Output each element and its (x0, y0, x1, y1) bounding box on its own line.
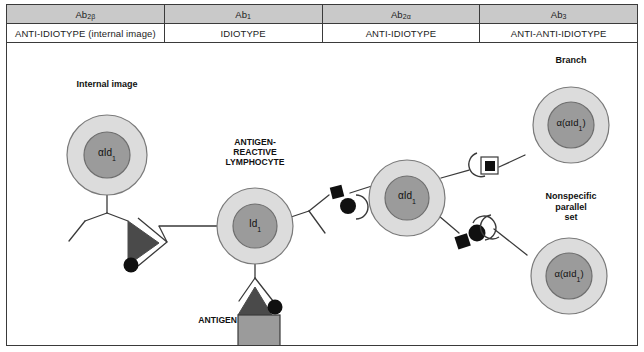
parallel-nucleus-tail: ) (580, 268, 583, 279)
ab1-paratope-arc-icon (356, 195, 368, 219)
ab2alpha-nucleus-label: αId1 (380, 190, 434, 203)
ab1-nucleus-text: Id (249, 218, 257, 229)
ab2beta-nucleus-sub: 1 (112, 155, 116, 162)
nps-line-2: parallel (519, 202, 623, 213)
receptor-arm-ab2beta-right (107, 213, 128, 221)
header-code-ab2beta-text: Ab (75, 9, 87, 20)
parallel-binding-group (454, 215, 499, 250)
stem-ab2alpha-lower (439, 216, 459, 233)
header-desc-ab2beta: ANTI-IDIOTYPE (internal image) (7, 24, 165, 42)
branch-nucleus-label: α(αId1) (538, 117, 604, 130)
antigen-epitope-triangle-icon (238, 287, 272, 315)
bond-to-parallel-cell (494, 229, 527, 255)
arl-line-1: ANTIGEN- (203, 137, 307, 147)
header-description-row: ANTI-IDIOTYPE (internal image) IDIOTYPE … (7, 24, 637, 43)
receptor-arm-ab1-lower (309, 211, 325, 233)
ab1-nucleus-sub: 1 (257, 226, 261, 233)
header-code-ab3-text: Ab (551, 9, 563, 20)
nonspecific-parallel-set-label: Nonspecific parallel set (519, 191, 623, 223)
header-code-ab1-text: Ab (235, 9, 247, 20)
diagram-frame: Ab2β Ab1 Ab2α Ab3 ANTI-IDIOTYPE (interna… (6, 4, 638, 346)
header-code-ab3: Ab3 (480, 5, 637, 23)
receptor-arm-ab1-upper (309, 195, 329, 211)
bond-to-branch-cell (499, 155, 525, 167)
nps-line-3: set (519, 212, 623, 223)
ab2beta-nucleus-label: αId1 (80, 147, 134, 160)
parallel-nucleus-label: α(αId1) (536, 268, 602, 281)
branch-nucleus-tail: ) (582, 117, 585, 128)
ab2beta-nucleus-text: αId (98, 147, 112, 158)
parallel-nucleus-sub: 1 (577, 276, 581, 283)
stem-ab2alpha-upper (441, 170, 469, 178)
header-desc-ab3: ANTI-ANTI-IDIOTYPE (480, 24, 637, 42)
ab1-right-epitope-group (330, 185, 368, 219)
header-code-ab2alpha-sub: 2α (403, 13, 411, 20)
header-code-ab1: Ab1 (165, 5, 323, 23)
ab2alpha-nucleus-text: αId (398, 190, 412, 201)
antigen-group (238, 287, 283, 345)
header-code-ab2alpha-text: Ab (391, 9, 403, 20)
antigen-reactive-lymphocyte-label: ANTIGEN- REACTIVE LYMPHOCYTE (203, 137, 307, 167)
header-code-ab2beta: Ab2β (7, 5, 165, 23)
antigen-label: ANTIGEN (175, 315, 237, 325)
header-desc-ab2alpha: ANTI-IDIOTYPE (323, 24, 481, 42)
antigen-body-icon (238, 315, 280, 345)
arl-line-3: LYMPHOCYTE (203, 157, 307, 167)
ab2alpha-nucleus-sub: 1 (412, 198, 416, 205)
receptor-arm-ab2beta-lower (69, 221, 85, 241)
branch-epitope-square-icon (485, 161, 495, 171)
header-code-ab3-sub: 3 (563, 13, 567, 20)
parallel-square-marker-icon (454, 233, 470, 249)
ab1-square-marker-icon (330, 185, 345, 200)
diagram-canvas: αId1 Id1 αId1 α(αId1) α(αId1) Internal i… (7, 43, 637, 345)
antigen-dot-icon (268, 300, 283, 315)
branch-label: Branch (531, 55, 611, 66)
internal-image-label: Internal image (57, 79, 157, 90)
header-code-ab2beta-sub: 2β (87, 13, 95, 20)
arl-line-2: REACTIVE (203, 147, 307, 157)
ab1-dot-marker-icon (340, 198, 356, 214)
ab1-nucleus-label: Id1 (232, 218, 278, 231)
header-code-ab1-sub: 1 (247, 13, 251, 20)
branch-nucleus-sub: 1 (579, 125, 583, 132)
branch-nucleus-text: α(αId (556, 117, 578, 128)
diagram-root: Ab2β Ab1 Ab2α Ab3 ANTI-IDIOTYPE (interna… (0, 0, 644, 352)
parallel-nucleus-text: α(αId (554, 268, 576, 279)
receptor-arm-ab2beta-upper (85, 213, 107, 221)
nps-line-1: Nonspecific (519, 191, 623, 202)
header-code-row: Ab2β Ab1 Ab2α Ab3 (7, 5, 637, 24)
header-code-ab2alpha: Ab2α (323, 5, 481, 23)
epitope-dot-icon (124, 258, 139, 273)
header-desc-ab1: IDIOTYPE (165, 24, 323, 42)
branch-binding-group (469, 153, 498, 177)
